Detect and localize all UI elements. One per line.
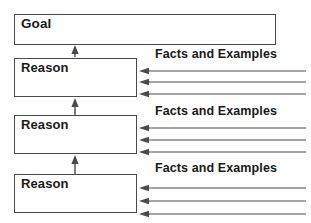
fact-arrow-3-2 [139,198,306,204]
facts-and-examples-label-1: Facts and Examples [155,47,277,61]
arrow-reason3-to-reason2-head [71,155,78,164]
fact-arrow-3-3 [139,211,306,217]
arrow-reason1-to-goal-head [71,45,78,54]
goal-label: Goal [21,16,51,31]
fact-arrow-2-3 [139,149,306,155]
fact-arrow-2-1 [139,125,306,131]
reason-label-3: Reason [21,176,69,191]
reason-label-1: Reason [21,60,69,75]
outline-diagram: Goal Reason Reason Reason Facts and Exam… [0,0,311,223]
fact-arrow-1-3 [139,91,306,97]
fact-arrow-2-2-head [139,137,149,143]
arrow-reason2-to-reason1 [71,98,78,115]
fact-arrow-3-1-head [139,185,149,191]
facts-and-examples-label-2: Facts and Examples [155,104,277,118]
fact-arrow-3-3-head [139,211,149,217]
horizontal-arrow-group [139,68,306,217]
fact-arrow-1-1 [139,68,306,74]
fact-arrow-2-1-head [139,125,149,131]
fact-arrow-2-2 [139,137,306,143]
fact-arrow-1-3-head [139,91,149,97]
fact-arrow-3-2-head [139,198,149,204]
facts-and-examples-label-3: Facts and Examples [155,161,277,175]
fact-arrow-3-1 [139,185,306,191]
fact-arrow-1-1-head [139,68,149,74]
fact-arrow-2-3-head [139,149,149,155]
goal-box[interactable] [14,14,276,45]
arrow-reason3-to-reason2 [71,155,78,174]
arrow-reason1-to-goal [71,45,78,57]
arrow-reason2-to-reason1-head [71,98,78,107]
fact-arrow-1-2-head [139,79,149,85]
reason-label-2: Reason [21,117,69,132]
fact-arrow-1-2 [139,79,306,85]
